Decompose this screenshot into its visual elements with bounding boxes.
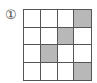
grid-cell: [58, 10, 75, 28]
grid-cell: [24, 45, 41, 63]
shaded-grid: [23, 9, 92, 81]
problem-number-label: ①: [5, 8, 17, 22]
grid-cell: [24, 28, 41, 46]
grid-cell: [58, 45, 75, 63]
grid-cell: [74, 28, 91, 46]
grid-cell: [58, 63, 75, 81]
grid-cell: [24, 63, 41, 81]
grid-cell: [41, 63, 58, 81]
grid-cell: [41, 28, 58, 46]
grid-cell: [24, 10, 41, 28]
grid-cell-shaded: [74, 63, 91, 81]
grid-cell: [74, 45, 91, 63]
grid-cell-shaded: [58, 28, 75, 46]
grid-cell: [41, 10, 58, 28]
grid-cell-shaded: [74, 10, 91, 28]
grid-cell-shaded: [41, 45, 58, 63]
